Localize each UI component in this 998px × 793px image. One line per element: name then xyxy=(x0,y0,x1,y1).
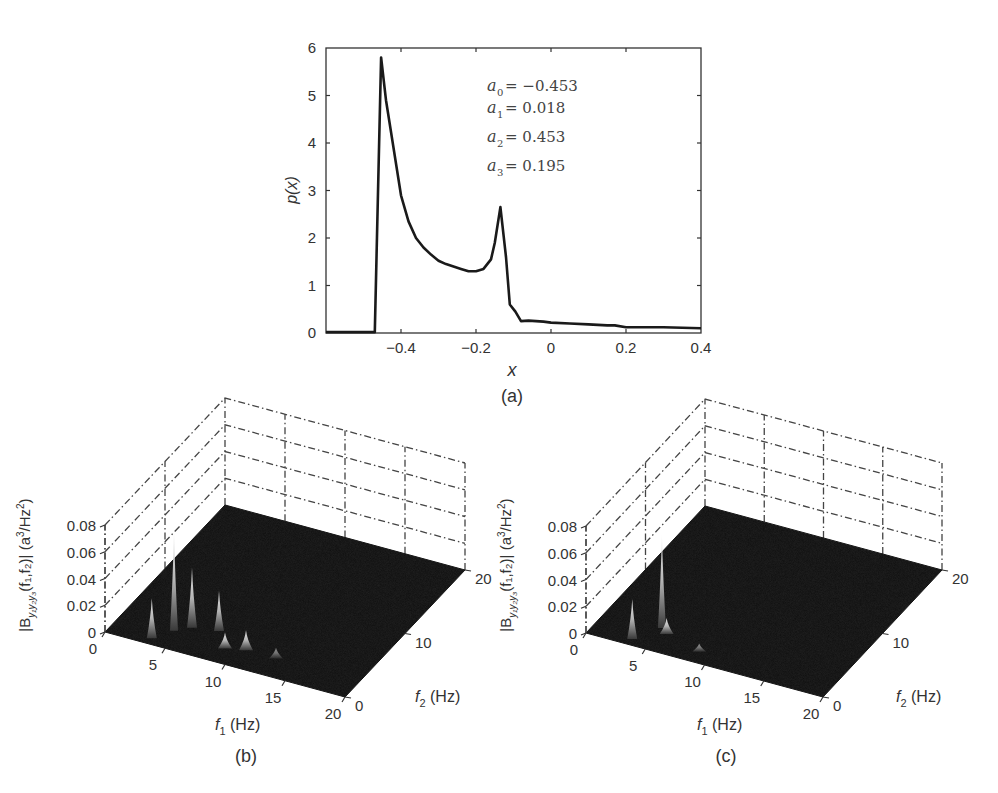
caption-a: (a) xyxy=(501,386,523,406)
svg-text:= 0.195: = 0.195 xyxy=(505,157,565,175)
figure: 0123456 −0.4−0.200.20.4 a0 = −0.453a1 = … xyxy=(0,0,998,793)
coefficient-annotations: a0 = −0.453a1 = 0.018a2 = 0.453a3 = 0.19… xyxy=(487,76,578,178)
x-axis-label: x xyxy=(507,360,518,380)
f1-tick-label: 0 xyxy=(89,640,97,657)
z-tick-label: 0.04 xyxy=(548,572,577,589)
f2-tick-label: 10 xyxy=(893,634,910,651)
f1-tick-label: 5 xyxy=(149,656,157,673)
svg-text:= −0.453: = −0.453 xyxy=(505,77,578,95)
z-tick-label: 0 xyxy=(88,624,96,641)
f1-tick-label: 0 xyxy=(570,641,578,658)
coefficient-a0: a0 = −0.453 xyxy=(487,76,578,98)
x-tick-label: −0.4 xyxy=(386,339,416,356)
f1-tick-label: 15 xyxy=(265,689,282,706)
f2-tick-label: 0 xyxy=(833,697,841,714)
f1-tick-label: 20 xyxy=(803,705,820,722)
f2-tick-label: 20 xyxy=(475,570,492,587)
f2-tick-label: 20 xyxy=(952,570,969,587)
z-tick-label: 0.08 xyxy=(67,517,96,534)
z-tick-label: 0.06 xyxy=(67,544,96,561)
f1-axis-label: f1 (Hz) xyxy=(697,716,742,737)
panel-b-bispectrum-surface: 00.020.040.060.080510152001020f1 (Hz)f2 … xyxy=(15,398,492,766)
z-tick-label: 0.06 xyxy=(548,545,577,562)
coefficient-a2: a2 = 0.453 xyxy=(487,127,565,149)
z-tick-label: 0 xyxy=(569,625,577,642)
y-tick-label: 6 xyxy=(308,39,316,56)
f2-axis-label: f2 (Hz) xyxy=(896,688,941,709)
z-tick-label: 0.08 xyxy=(548,518,577,535)
f1-tick-label: 15 xyxy=(743,689,760,706)
f1-tick-label: 10 xyxy=(684,673,701,690)
caption-b: (b) xyxy=(235,746,257,766)
svg-text:= 0.453: = 0.453 xyxy=(505,128,565,146)
f1-tick-label: 20 xyxy=(325,705,342,722)
svg-text:a: a xyxy=(487,98,497,117)
svg-text:a: a xyxy=(487,156,497,175)
coefficient-a3: a3 = 0.195 xyxy=(487,156,565,178)
svg-text:a: a xyxy=(487,76,497,95)
z-tick-label: 0.02 xyxy=(548,598,577,615)
z-tick-label: 0.04 xyxy=(67,571,96,588)
f1-tick-label: 5 xyxy=(629,657,637,674)
z-tick-label: 0.02 xyxy=(67,597,96,614)
y-tick-label: 4 xyxy=(308,134,316,151)
svg-text:2: 2 xyxy=(497,138,503,149)
svg-text:1: 1 xyxy=(497,109,503,120)
x-tick-label: 0 xyxy=(547,339,555,356)
svg-text:3: 3 xyxy=(497,167,503,178)
caption-c: (c) xyxy=(716,746,737,766)
y-tick-label: 1 xyxy=(308,277,316,294)
panel-a-line-chart: 0123456 −0.4−0.200.20.4 a0 = −0.453a1 = … xyxy=(283,39,711,406)
y-axis-label: p(x) xyxy=(283,176,300,205)
f2-tick-label: 10 xyxy=(415,634,432,651)
x-tick-label: −0.2 xyxy=(461,339,491,356)
f2-axis-label: f2 (Hz) xyxy=(415,688,460,709)
f1-tick-label: 10 xyxy=(205,673,222,690)
z-axis-label: |By₁y₂y₃(f₁,f₂)| (a3/Hz2) xyxy=(15,498,37,631)
z-axis-label: |By₁y₂y₃(f₁,f₂)| (a3/Hz2) xyxy=(496,498,518,631)
svg-text:= 0.018: = 0.018 xyxy=(505,99,565,117)
f1-axis-label: f1 (Hz) xyxy=(215,716,260,737)
x-tick-label: 0.4 xyxy=(691,339,712,356)
y-tick-label: 0 xyxy=(308,324,316,341)
y-tick-label: 3 xyxy=(308,182,316,199)
f2-tick-label: 0 xyxy=(355,697,363,714)
x-tick-label: 0.2 xyxy=(616,339,637,356)
y-tick-label: 5 xyxy=(308,87,316,104)
coefficient-a1: a1 = 0.018 xyxy=(487,98,565,120)
panel-c-bispectrum-surface: 00.020.040.060.080510152001020f1 (Hz)f2 … xyxy=(496,399,969,766)
svg-text:a: a xyxy=(487,127,497,146)
svg-text:0: 0 xyxy=(497,87,503,98)
y-tick-label: 2 xyxy=(308,229,316,246)
